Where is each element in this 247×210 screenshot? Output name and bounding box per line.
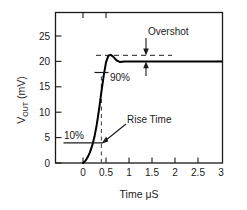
x-axis-title: Time μS	[120, 188, 159, 200]
y-tick-label-25: 25	[39, 31, 51, 42]
x-tick-label-0: 0	[80, 167, 86, 178]
x-tick-label-3: 3	[218, 167, 224, 178]
x-tick-label-1: 1	[126, 167, 132, 178]
ninety-percent-label: 90%	[110, 72, 130, 83]
y-axis-title-sub: OUT	[22, 101, 29, 117]
rise-time-arrow-group	[101, 124, 126, 144]
x-tick-label-2: 2	[172, 167, 178, 178]
y-axis-title: VOUT (mV)	[15, 76, 29, 123]
overshoot-arrow-lower-head	[143, 61, 149, 68]
y-tick-label-0: 0	[44, 158, 50, 169]
overshoot-arrow-group	[143, 38, 149, 76]
y-axis-tick-labels: 0 5 10 15 20 25	[39, 31, 51, 169]
rise-time-arrow-shaft	[106, 124, 127, 141]
y-axis-title-unit: (mV)	[15, 76, 27, 102]
x-tick-label-2.5: 2.5	[191, 167, 205, 178]
x-tick-label-1.5: 1.5	[145, 167, 159, 178]
x-axis-tick-labels: 0 0.5 1 1.5 2 2.5 3	[80, 167, 224, 178]
y-tick-label-15: 15	[39, 81, 51, 92]
ten-percent-label: 10%	[64, 130, 84, 141]
svg-text:VOUT (mV): VOUT (mV)	[15, 76, 29, 123]
step-response-chart: 0 5 10 15 20 25 0 0.5 1 1.5 2 2.5 3	[0, 0, 247, 210]
rise-time-label: Rise Time	[127, 114, 172, 125]
response-curve	[83, 55, 222, 163]
y-axis-ticks	[56, 36, 223, 163]
rise-time-arrow-head	[101, 137, 108, 144]
y-tick-label-20: 20	[39, 56, 51, 67]
y-axis-title-main: V	[15, 117, 27, 124]
x-tick-label-0.5: 0.5	[99, 167, 113, 178]
overshot-label: Overshot	[148, 26, 189, 37]
overshoot-arrow-upper-head	[143, 49, 149, 56]
y-tick-label-10: 10	[39, 107, 51, 118]
y-tick-label-5: 5	[44, 132, 50, 143]
chart-figure: 0 5 10 15 20 25 0 0.5 1 1.5 2 2.5 3	[0, 0, 247, 210]
